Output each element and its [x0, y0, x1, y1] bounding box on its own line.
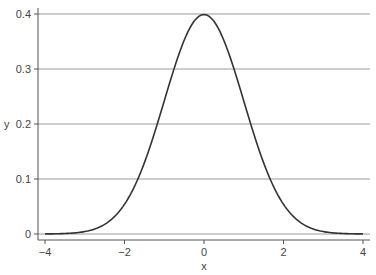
y-axis-ticks: 00.10.20.30.4 — [16, 8, 38, 240]
y-tick-label: 0.2 — [16, 118, 31, 130]
y-tick-label: 0 — [25, 228, 31, 240]
chart: −4−2024 00.10.20.30.4 x y — [0, 0, 376, 275]
x-tick-label: −2 — [118, 246, 131, 258]
y-tick-label: 0.3 — [16, 63, 31, 75]
y-tick-label: 0.4 — [16, 8, 31, 20]
x-tick-label: 4 — [360, 246, 366, 258]
x-tick-label: −4 — [39, 246, 52, 258]
y-axis-label: y — [4, 118, 10, 130]
x-tick-label: 2 — [280, 246, 286, 258]
x-axis-ticks: −4−2024 — [39, 240, 366, 258]
y-tick-label: 0.1 — [16, 173, 31, 185]
gridlines — [38, 14, 370, 234]
x-tick-label: 0 — [201, 246, 207, 258]
x-axis-label: x — [201, 260, 207, 272]
